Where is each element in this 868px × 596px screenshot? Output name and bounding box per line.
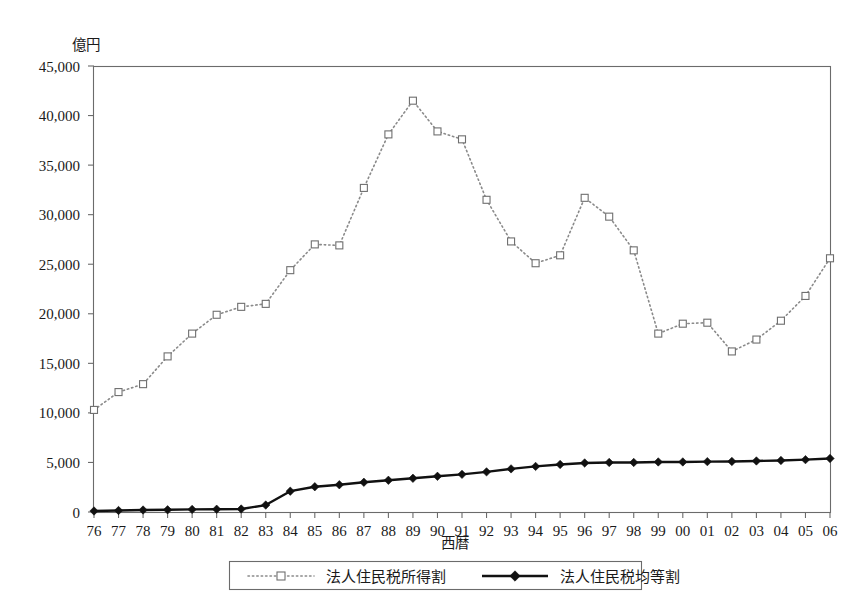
data-point-income xyxy=(581,194,588,201)
y-tick-label: 30,000 xyxy=(39,207,80,223)
x-tick-label: 82 xyxy=(234,523,249,539)
data-point-income xyxy=(777,317,784,324)
data-point-per-capita xyxy=(605,458,613,466)
data-point-per-capita xyxy=(384,476,392,484)
legend-label: 法人住民税均等割 xyxy=(560,568,680,585)
x-tick-label: 96 xyxy=(577,523,593,539)
data-point-per-capita xyxy=(728,457,736,465)
y-tick-label: 40,000 xyxy=(39,108,80,124)
x-tick-label: 89 xyxy=(405,523,420,539)
x-tick-label: 97 xyxy=(602,523,618,539)
data-point-income xyxy=(753,336,760,343)
x-tick-label: 87 xyxy=(356,523,372,539)
x-tick-label: 05 xyxy=(798,523,813,539)
data-point-income xyxy=(311,241,318,248)
x-tick-label: 93 xyxy=(504,523,519,539)
data-point-per-capita xyxy=(826,454,834,462)
x-tick-label: 95 xyxy=(553,523,568,539)
x-tick-label: 85 xyxy=(307,523,322,539)
series-corporate-resident-per-capita xyxy=(90,454,834,515)
series-line-income xyxy=(94,101,830,410)
data-point-income xyxy=(189,330,196,337)
x-tick-label: 02 xyxy=(724,523,739,539)
data-point-income xyxy=(802,292,809,299)
y-axis-title-text: 億円 xyxy=(72,37,100,53)
x-tick-label: 81 xyxy=(209,523,224,539)
x-tick-label: 92 xyxy=(479,523,494,539)
legend-marker-open-square xyxy=(277,572,285,580)
y-tick-label: 15,000 xyxy=(39,356,80,372)
data-point-income xyxy=(164,353,171,360)
x-tick-label: 03 xyxy=(749,523,764,539)
x-tick-label: 77 xyxy=(111,523,127,539)
x-tick-label: 94 xyxy=(528,523,544,539)
data-point-per-capita xyxy=(654,458,662,466)
data-point-income xyxy=(213,311,220,318)
data-point-income xyxy=(140,381,147,388)
y-tick-label: 10,000 xyxy=(39,405,80,421)
chart-legend: 法人住民税所得割法人住民税均等割 xyxy=(230,562,681,590)
data-point-per-capita xyxy=(482,468,490,476)
data-point-income xyxy=(238,303,245,310)
data-point-income xyxy=(360,184,367,191)
x-tick-label: 01 xyxy=(700,523,715,539)
x-tick-label: 88 xyxy=(381,523,396,539)
data-point-per-capita xyxy=(360,478,368,486)
data-point-per-capita xyxy=(752,457,760,465)
y-tick-label: 35,000 xyxy=(39,158,80,174)
data-point-income xyxy=(630,247,637,254)
data-point-income xyxy=(557,252,564,259)
y-tick-label: 0 xyxy=(73,505,81,521)
x-tick-label: 76 xyxy=(87,523,103,539)
data-point-income xyxy=(655,330,662,337)
plot-frame xyxy=(94,67,831,513)
data-point-income xyxy=(91,406,98,413)
data-point-per-capita xyxy=(801,455,809,463)
data-point-income xyxy=(434,128,441,135)
data-point-income xyxy=(827,255,834,262)
y-tick-label: 25,000 xyxy=(39,257,80,273)
data-point-income xyxy=(483,196,490,203)
data-point-income xyxy=(459,136,466,143)
data-point-income xyxy=(336,242,343,249)
legend-label: 法人住民税所得割 xyxy=(326,569,446,585)
chart-container: 億円 05,00010,00015,00020,00025,00030,0003… xyxy=(0,0,868,596)
data-point-per-capita xyxy=(90,507,98,515)
data-point-income xyxy=(409,97,416,104)
y-tick-label: 45,000 xyxy=(39,59,80,75)
data-point-per-capita xyxy=(531,462,539,470)
data-point-per-capita xyxy=(507,465,515,473)
data-point-income xyxy=(704,319,711,326)
data-point-income xyxy=(508,238,515,245)
x-tick-label: 84 xyxy=(283,523,299,539)
x-tick-label: 83 xyxy=(258,523,273,539)
data-point-per-capita xyxy=(114,506,122,514)
data-point-income xyxy=(262,300,269,307)
x-tick-label: 79 xyxy=(160,523,175,539)
x-tick-label: 98 xyxy=(626,523,641,539)
data-point-per-capita xyxy=(311,483,319,491)
x-tick-label: 99 xyxy=(651,523,666,539)
line-chart: 億円 05,00010,00015,00020,00025,00030,0003… xyxy=(0,0,868,596)
x-tick-label: 78 xyxy=(136,523,151,539)
y-tick-label: 5,000 xyxy=(46,455,80,471)
data-point-per-capita xyxy=(335,481,343,489)
x-axis-title: 西暦 xyxy=(441,535,469,551)
x-tick-label: 00 xyxy=(675,523,690,539)
series-line-per-capita xyxy=(94,458,830,511)
data-point-per-capita xyxy=(458,470,466,478)
y-axis-tick-labels: 05,00010,00015,00020,00025,00030,00035,0… xyxy=(39,59,80,521)
data-point-per-capita xyxy=(703,457,711,465)
data-point-income xyxy=(532,260,539,267)
y-axis-title: 億円 xyxy=(72,37,100,53)
data-point-income xyxy=(385,131,392,138)
data-point-per-capita xyxy=(630,458,638,466)
data-point-per-capita xyxy=(679,458,687,466)
data-point-income xyxy=(287,267,294,274)
data-point-income xyxy=(115,389,122,396)
data-point-income xyxy=(606,213,613,220)
data-point-per-capita xyxy=(409,474,417,482)
x-tick-label: 06 xyxy=(823,523,839,539)
y-tick-label: 20,000 xyxy=(39,306,80,322)
data-point-per-capita xyxy=(433,472,441,480)
